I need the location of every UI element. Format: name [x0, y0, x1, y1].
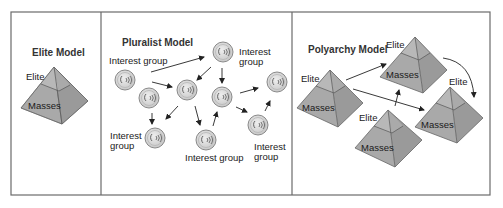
elite-label: Elite — [449, 76, 467, 87]
pluralist-model-title: Pluralist Model — [122, 37, 193, 48]
interest-group-label: group — [239, 56, 263, 67]
interest-group-circle-icon — [145, 128, 165, 148]
elite-label: Elite — [386, 39, 404, 50]
interest-group-circle-icon — [177, 80, 197, 100]
interest-group-label: group — [254, 151, 278, 162]
masses-label: Masses — [361, 142, 394, 153]
interest-group-circle-icon — [248, 115, 268, 135]
interest-group-circle-icon — [267, 72, 287, 92]
interest-group-circle-icon — [212, 87, 232, 107]
elite-label: Elite — [359, 112, 377, 123]
interest-group-circle-icon — [196, 130, 216, 150]
interest-group-circle-icon — [139, 88, 159, 108]
interest-group-label: Interest group — [109, 55, 168, 66]
elite-label: Elite — [301, 73, 319, 84]
interest-group-circle-icon — [213, 42, 233, 62]
masses-label: Masses — [386, 69, 419, 80]
masses-label: Masses — [421, 119, 454, 130]
interest-group-label: group — [110, 140, 134, 151]
interest-group-label: Interest group — [185, 152, 244, 163]
elite-label: Elite — [26, 71, 44, 82]
interest-group-circle-icon — [115, 70, 135, 90]
masses-label: Masses — [302, 102, 335, 113]
political-models-diagram: Elite Model Elite Masses Pluralist Model — [0, 0, 503, 208]
masses-label: Masses — [28, 100, 61, 111]
polyarchy-model-title: Polyarchy Model — [308, 44, 388, 55]
elite-model-title: Elite Model — [32, 47, 85, 58]
